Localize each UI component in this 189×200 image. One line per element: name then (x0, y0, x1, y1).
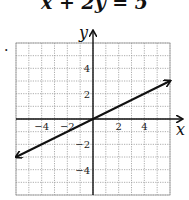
x-axis-label: x (176, 120, 185, 139)
svg-text:−4: −4 (75, 165, 90, 176)
svg-text:2: 2 (115, 121, 121, 132)
svg-text:−2: −2 (75, 139, 90, 150)
svg-text:4: 4 (141, 121, 147, 132)
svg-text:2: 2 (84, 89, 90, 100)
svg-text:−2: −2 (60, 121, 75, 132)
y-axis-label: y (78, 23, 89, 42)
coordinate-plane: −4−22442−2−4 x y (0, 0, 189, 200)
svg-text:−4: −4 (34, 121, 49, 132)
svg-text:4: 4 (84, 63, 90, 74)
